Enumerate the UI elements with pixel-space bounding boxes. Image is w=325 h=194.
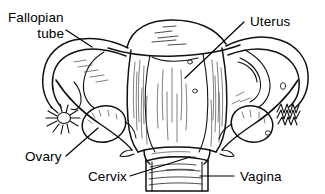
label-cervix: Cervix bbox=[88, 169, 127, 184]
right-tube-fold bbox=[238, 62, 257, 82]
right-tube-vessel bbox=[280, 83, 285, 90]
right-ovary-texture bbox=[242, 110, 265, 123]
uterus-group bbox=[108, 20, 240, 152]
leader-lines bbox=[66, 22, 244, 176]
vagina-group bbox=[146, 157, 208, 191]
uterus-cavity-striations bbox=[157, 68, 187, 142]
cervix-right-edge bbox=[204, 150, 210, 164]
cervix-left-fornix bbox=[120, 150, 134, 156]
label-fallopian-tube-line2: tube bbox=[37, 26, 64, 41]
fundus-hatching bbox=[152, 26, 186, 45]
left-fallopian-tube-group bbox=[43, 38, 128, 134]
right-ovary-vessel bbox=[265, 131, 270, 135]
left-broad-ligament-group bbox=[56, 60, 132, 150]
right-ovary-outline bbox=[227, 101, 277, 147]
uterus-right-wall bbox=[216, 48, 227, 152]
left-ovary-texture bbox=[88, 110, 117, 123]
leader-ovary bbox=[66, 128, 98, 156]
label-uterus: Uterus bbox=[250, 14, 291, 29]
cervix-left-edge bbox=[144, 150, 150, 164]
right-ovary-group bbox=[219, 101, 277, 147]
leader-uterus bbox=[185, 22, 244, 78]
cervix-shoulder bbox=[138, 147, 216, 152]
leader-cervix bbox=[130, 157, 190, 176]
left-tube-lower-edge bbox=[52, 49, 126, 107]
anatomy-diagram: Fallopian tube Uterus Ovary Cervix Vagin… bbox=[0, 0, 325, 194]
left-broad-ligament-outline bbox=[56, 80, 132, 150]
diagram-canvas: Fallopian tube Uterus Ovary Cervix Vagin… bbox=[0, 0, 325, 194]
left-fimbriae bbox=[46, 104, 80, 134]
right-broad-ligament-hatching bbox=[232, 92, 250, 104]
label-fallopian-tube-line1: Fallopian bbox=[8, 10, 64, 25]
uterus-vessel-upper bbox=[188, 60, 193, 64]
right-tube-lower-edge bbox=[228, 49, 299, 107]
cervix-right-fornix bbox=[220, 150, 234, 156]
uterus-fundus-outline bbox=[127, 20, 226, 47]
label-ovary: Ovary bbox=[25, 149, 62, 164]
uterus-cavity-apex bbox=[152, 57, 198, 61]
vagina-outline bbox=[146, 160, 208, 191]
left-tube-inner-loop bbox=[83, 52, 104, 108]
right-tube-ampulla bbox=[240, 58, 261, 102]
uterus-cavity-right bbox=[199, 54, 208, 152]
vagina-top-edge bbox=[146, 157, 208, 161]
uterus-vessel-lower bbox=[193, 89, 198, 93]
uterus-right-striations bbox=[211, 60, 223, 146]
label-vagina: Vagina bbox=[240, 169, 282, 184]
